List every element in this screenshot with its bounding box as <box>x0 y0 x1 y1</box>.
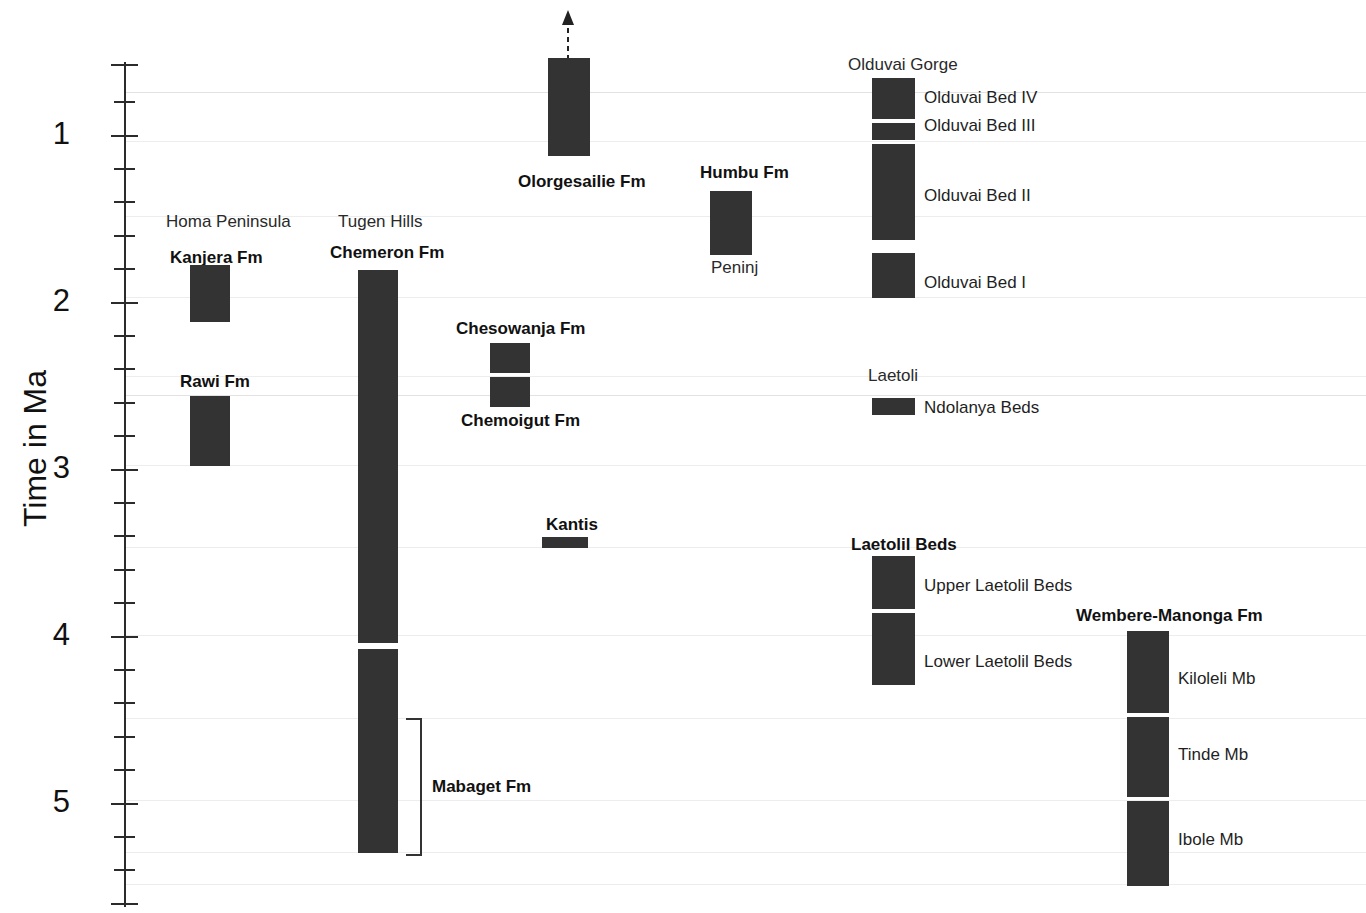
axis-tick <box>114 602 135 604</box>
axis-tick-major <box>111 803 138 805</box>
axis-tick <box>114 869 135 871</box>
bar-kanjera-fm <box>190 265 230 322</box>
unit-label-kiloleli-mb: Kiloleli Mb <box>1178 670 1255 687</box>
bar-kiloleli-mb <box>1127 631 1169 713</box>
formation-label-chemoigut: Chemoigut Fm <box>461 412 580 429</box>
bar-olorgesailie-fm <box>548 58 590 156</box>
unit-label-lower-laetolil-beds: Lower Laetolil Beds <box>924 653 1072 670</box>
axis-tick <box>114 702 135 704</box>
gridline <box>126 141 1366 142</box>
y-axis-line <box>124 62 126 907</box>
axis-tick-major <box>111 469 138 471</box>
unit-label-ndolanya-beds: Ndolanya Beds <box>924 399 1039 416</box>
axis-tick <box>114 502 135 504</box>
formation-label-olorgesailie: Olorgesailie Fm <box>518 173 646 190</box>
gridline <box>126 884 1366 885</box>
bar-lower-laetolil-beds <box>872 613 915 685</box>
gridline <box>126 547 1366 548</box>
bar-olduvai-bed-iv <box>872 78 915 119</box>
formation-label-chemeron: Chemeron Fm <box>330 244 444 261</box>
y-tick-label-4: 4 <box>10 619 70 650</box>
gridline <box>126 800 1366 801</box>
axis-tick <box>114 769 135 771</box>
gridline <box>126 635 1366 636</box>
unit-label-olduvai-bed-ii: Olduvai Bed II <box>924 187 1031 204</box>
axis-tick <box>114 268 135 270</box>
bar-upper-laetolil-beds <box>872 556 915 609</box>
unit-label-olduvai-bed-i: Olduvai Bed I <box>924 274 1026 291</box>
formation-label-rawi: Rawi Fm <box>180 373 250 390</box>
bar-kantis <box>542 537 588 548</box>
axis-tick <box>114 101 135 103</box>
bar-olduvai-bed-iii <box>872 123 915 140</box>
unit-label-upper-laetolil-beds: Upper Laetolil Beds <box>924 577 1072 594</box>
axis-tick <box>114 368 135 370</box>
region-label-tugen-hills: Tugen Hills <box>338 213 422 230</box>
formation-label-wembere-manonga: Wembere-Manonga Fm <box>1076 607 1263 624</box>
bar-mabaget-fm <box>358 649 398 853</box>
y-axis-title: Time in Ma <box>17 319 54 579</box>
bar-ibole-mb <box>1127 801 1169 886</box>
bar-ndolanya-beds <box>872 398 915 415</box>
axis-tick <box>114 402 135 404</box>
axis-tick <box>114 168 135 170</box>
sub-label-peninj: Peninj <box>711 259 758 276</box>
region-label-laetoli: Laetoli <box>868 367 918 384</box>
formation-label-kanjera: Kanjera Fm <box>170 249 263 266</box>
axis-tick-major <box>111 302 138 304</box>
region-label-homa-peninsula: Homa Peninsula <box>166 213 291 230</box>
formation-label-mabaget: Mabaget Fm <box>432 778 531 795</box>
gridline <box>126 395 1366 396</box>
unit-label-ibole-mb: Ibole Mb <box>1178 831 1243 848</box>
bracket-mabaget <box>406 718 422 856</box>
bar-olduvai-bed-ii <box>872 144 915 240</box>
axis-tick <box>111 903 138 905</box>
bar-humbu-fm <box>710 191 752 255</box>
gridline <box>126 852 1366 853</box>
bar-chemeron-fm <box>358 270 398 643</box>
formation-label-laetolil-beds: Laetolil Beds <box>851 536 957 553</box>
axis-tick-major <box>111 636 138 638</box>
y-tick-label-5: 5 <box>10 786 70 817</box>
axis-tick <box>114 335 135 337</box>
axis-tick <box>114 669 135 671</box>
stratigraphic-chart: Time in Ma 1 2 3 4 5 Homa Peninsula Kanj… <box>0 0 1366 913</box>
bar-tinde-mb <box>1127 717 1169 797</box>
axis-tick <box>114 201 135 203</box>
bar-chesowanja-fm <box>490 343 530 373</box>
formation-label-kantis: Kantis <box>546 516 598 533</box>
y-tick-label-1: 1 <box>10 118 70 149</box>
unit-label-olduvai-bed-iv: Olduvai Bed IV <box>924 89 1037 106</box>
gridline <box>126 465 1366 466</box>
gridline <box>126 718 1366 719</box>
gridline <box>126 92 1366 93</box>
axis-tick <box>114 736 135 738</box>
bar-olduvai-bed-i <box>872 253 915 298</box>
gridline <box>126 297 1366 298</box>
gridline <box>126 376 1366 377</box>
bar-rawi-fm <box>190 396 230 466</box>
y-tick-label-3: 3 <box>10 452 70 483</box>
y-tick-label-2: 2 <box>10 285 70 316</box>
axis-tick <box>114 235 135 237</box>
axis-tick <box>114 535 135 537</box>
bar-chemoigut-fm <box>490 377 530 407</box>
axis-tick-major <box>111 135 138 137</box>
formation-label-chesowanja: Chesowanja Fm <box>456 320 585 337</box>
unit-label-olduvai-bed-iii: Olduvai Bed III <box>924 117 1036 134</box>
region-label-olduvai-gorge: Olduvai Gorge <box>848 56 958 73</box>
axis-tick <box>114 836 135 838</box>
formation-label-humbu: Humbu Fm <box>700 164 789 181</box>
axis-tick <box>111 64 138 66</box>
unit-label-tinde-mb: Tinde Mb <box>1178 746 1248 763</box>
up-arrow-icon <box>556 10 580 60</box>
axis-tick <box>114 569 135 571</box>
axis-tick <box>114 435 135 437</box>
